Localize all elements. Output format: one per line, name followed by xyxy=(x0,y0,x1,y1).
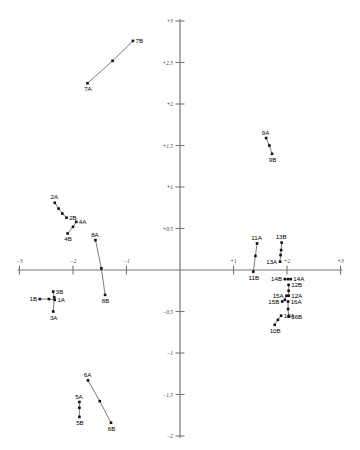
data-point-10-mid xyxy=(277,319,280,322)
point-label-15B: 15B xyxy=(268,298,279,305)
data-point-8-mid xyxy=(100,267,103,270)
series-line-13 xyxy=(280,243,282,262)
data-point-7B xyxy=(132,40,135,43)
point-label-12B: 12B xyxy=(291,281,302,288)
plot-canvas: −3−2−1+1+2+3−2−1.5−1−0.5+0.5+1+1.5+2+2.5… xyxy=(0,0,360,450)
data-point-10B xyxy=(273,323,276,326)
y-axis-tick-label: +1 xyxy=(167,184,174,190)
data-point-13-mid xyxy=(280,249,283,252)
point-label-13A: 13A xyxy=(266,258,278,265)
y-axis-tick-label: −2 xyxy=(167,433,174,439)
x-axis-tick-label: −3 xyxy=(16,258,23,264)
point-label-4A: 4A xyxy=(79,218,87,225)
series-connector-lines xyxy=(40,41,291,423)
point-label-2B: 2B xyxy=(69,214,77,221)
y-axis-tick-label: −1.5 xyxy=(163,392,174,398)
data-point-9B xyxy=(271,153,274,156)
y-axis-tick-label: +2.5 xyxy=(163,60,174,66)
point-label-5B: 5B xyxy=(76,419,84,426)
data-point-4A xyxy=(75,221,78,224)
data-point-16A xyxy=(287,300,290,303)
series-line-2 xyxy=(55,203,67,218)
point-label-6A: 6A xyxy=(84,371,92,378)
data-point-7-mid xyxy=(111,60,114,63)
x-axis-tick-label: +1 xyxy=(230,258,237,264)
data-point-11-mid xyxy=(254,255,257,258)
point-label-9B: 9B xyxy=(269,156,277,163)
point-label-16A: 16A xyxy=(291,298,303,305)
data-point-6-mid xyxy=(98,400,101,403)
point-label-10A: 10A xyxy=(284,312,296,319)
data-point-14-mid xyxy=(287,278,290,281)
data-point-3A xyxy=(52,310,55,313)
data-point-11B xyxy=(252,270,255,273)
data-point-9A xyxy=(265,137,268,140)
point-label-3A: 3A xyxy=(50,314,58,321)
data-point-7A xyxy=(86,82,89,85)
series-line-1 xyxy=(40,299,55,300)
series-line-11 xyxy=(253,243,257,271)
y-axis-tick-label: +2 xyxy=(167,101,174,107)
data-point-2B xyxy=(65,216,68,219)
data-point-6B xyxy=(110,421,113,424)
data-point-2A xyxy=(54,201,57,204)
data-point-15-mid xyxy=(284,299,287,302)
data-point-2-mid xyxy=(57,207,60,210)
series-line-7 xyxy=(87,41,132,83)
data-point-13B xyxy=(280,241,283,244)
data-point-2-mid xyxy=(61,212,64,215)
point-label-8B: 8B xyxy=(102,297,110,304)
data-point-8A xyxy=(94,239,97,242)
data-points-group xyxy=(39,40,293,424)
x-axis-tick-label: −1 xyxy=(123,258,130,264)
point-label-11B: 11B xyxy=(249,274,260,281)
y-axis-tick-label: −1 xyxy=(167,350,174,356)
data-point-4B xyxy=(66,232,69,235)
x-axis-tick-label: +2 xyxy=(284,258,291,264)
point-label-3B: 3B xyxy=(56,288,64,295)
data-point-4-mid xyxy=(72,226,75,229)
data-point-5-mid xyxy=(78,406,81,409)
data-point-1-mid xyxy=(48,298,51,301)
point-label-7A: 7A xyxy=(84,85,92,92)
data-point-8B xyxy=(104,294,107,297)
data-point-15B xyxy=(281,300,284,303)
data-point-14A xyxy=(289,278,292,281)
data-point-5A xyxy=(78,401,81,404)
data-point-3B xyxy=(52,290,55,293)
data-point-10A xyxy=(280,314,283,317)
data-point-13-mid xyxy=(279,254,282,257)
y-axis-tick-label: +0.5 xyxy=(163,226,174,232)
data-point-labels-group: 1B1A3B3A2A2B4B4A8A8B7A7B5A5B6A6B9A9B11A1… xyxy=(29,37,305,432)
x-axis-tick-label: −2 xyxy=(70,258,77,264)
data-point-9-mid xyxy=(268,144,271,147)
y-axis-tick-label: +3 xyxy=(167,18,174,24)
point-label-1A: 1A xyxy=(57,296,65,303)
data-point-12B xyxy=(287,284,290,287)
data-point-15A xyxy=(285,294,288,297)
point-label-10B: 10B xyxy=(270,327,281,334)
point-label-4B: 4B xyxy=(64,235,72,242)
data-point-13A xyxy=(279,260,282,263)
x-axis-tick-label: +3 xyxy=(337,258,344,264)
point-label-7B: 7B xyxy=(136,37,144,44)
point-label-8A: 8A xyxy=(91,231,99,238)
point-label-9A: 9A xyxy=(262,129,270,136)
y-axis-tick-label: +1.5 xyxy=(163,143,174,149)
y-axis-tick-label: −0.5 xyxy=(163,309,174,315)
point-label-13B: 13B xyxy=(276,233,287,240)
point-label-6B: 6B xyxy=(108,425,116,432)
point-label-14B: 14B xyxy=(271,275,282,282)
point-label-11A: 11A xyxy=(251,234,262,241)
point-label-2A: 2A xyxy=(51,193,59,200)
scatter-plot-figure: −3−2−1+1+2+3−2−1.5−1−0.5+0.5+1+1.5+2+2.5… xyxy=(0,0,360,450)
data-point-16-mid xyxy=(287,308,290,311)
point-label-5A: 5A xyxy=(75,393,83,400)
data-point-3-mid xyxy=(53,296,56,299)
series-line-3 xyxy=(53,292,54,312)
data-point-1B xyxy=(39,298,42,301)
point-label-1B: 1B xyxy=(29,295,37,302)
data-point-14B xyxy=(284,278,287,281)
data-point-12-mid xyxy=(287,289,290,292)
data-point-11A xyxy=(256,242,259,245)
